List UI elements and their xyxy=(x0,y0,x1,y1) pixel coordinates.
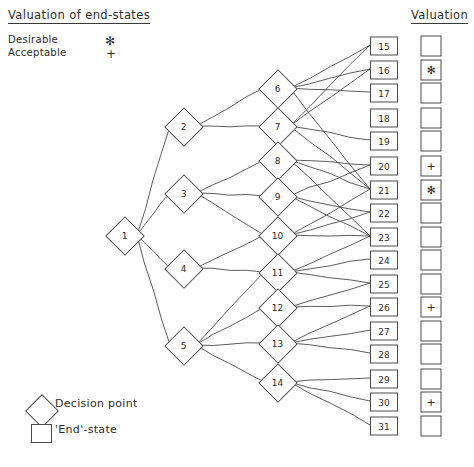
end-state-box-29[interactable]: 29 xyxy=(370,370,398,389)
decision-node-label: 11 xyxy=(272,268,283,277)
valuation-box-28[interactable] xyxy=(421,344,442,365)
tree-edge xyxy=(137,126,170,235)
decision-node-label: 10 xyxy=(272,231,283,240)
valuation-box-21[interactable]: ✻ xyxy=(421,180,442,201)
decision-node-label: 9 xyxy=(275,192,281,201)
valuation-box-19[interactable] xyxy=(421,131,442,152)
tree-edge xyxy=(290,306,370,343)
decision-node-label: 7 xyxy=(275,122,281,131)
decision-node-label: 4 xyxy=(181,264,187,273)
valuation-box-25[interactable] xyxy=(421,274,442,295)
tree-edge xyxy=(196,193,264,196)
tree-edge xyxy=(196,345,264,382)
key-end-state-label: 'End'-state xyxy=(55,423,117,436)
tree-edge xyxy=(196,126,264,127)
tree-edge xyxy=(290,160,370,236)
tree-edge xyxy=(290,305,370,307)
asterisk-icon: ✻ xyxy=(105,35,115,47)
valuation-box-24[interactable] xyxy=(421,250,442,271)
tree-edge xyxy=(290,283,370,307)
end-state-box-26[interactable]: 26 xyxy=(370,298,398,317)
end-state-box-22[interactable]: 22 xyxy=(370,204,398,223)
tree-edge xyxy=(137,235,170,268)
decision-node-label: 8 xyxy=(275,156,281,165)
tree-edge xyxy=(290,69,370,126)
legend-acceptable-label: Acceptable xyxy=(8,47,67,58)
valuation-column-title: Valuation xyxy=(411,8,468,24)
tree-edge xyxy=(290,196,370,212)
end-state-box-24[interactable]: 24 xyxy=(370,251,398,270)
valuation-box-26[interactable]: + xyxy=(421,297,442,318)
tree-edge xyxy=(290,382,370,401)
valuation-box-29[interactable] xyxy=(421,369,442,390)
valuation-box-27[interactable] xyxy=(421,321,442,342)
tree-edge xyxy=(196,343,264,346)
end-state-box-27[interactable]: 27 xyxy=(370,322,398,341)
valuation-box-22[interactable] xyxy=(421,203,442,224)
tree-edge xyxy=(290,189,370,235)
end-state-box-16[interactable]: 16 xyxy=(370,61,398,80)
end-state-box-15[interactable]: 15 xyxy=(370,37,398,56)
tree-edge xyxy=(196,160,264,193)
valuation-box-30[interactable]: + xyxy=(421,392,442,413)
plus-icon: + xyxy=(106,48,116,60)
end-state-box-23[interactable]: 23 xyxy=(370,228,398,247)
decision-node-label: 14 xyxy=(272,378,283,387)
decision-node-label: 5 xyxy=(181,341,187,350)
tree-edge xyxy=(290,382,370,425)
end-state-box-17[interactable]: 17 xyxy=(370,84,398,103)
tree-edge xyxy=(290,212,370,235)
tree-edge xyxy=(137,193,170,235)
decision-node-label: 2 xyxy=(181,122,187,131)
tree-edge xyxy=(196,268,264,272)
tree-edge xyxy=(290,45,370,88)
valuation-box-18[interactable] xyxy=(421,108,442,129)
page-title: Valuation of end-states xyxy=(8,8,150,24)
tree-edge xyxy=(196,272,264,345)
valuation-box-23[interactable] xyxy=(421,227,442,248)
decision-node-label: 1 xyxy=(122,231,128,240)
tree-edge xyxy=(290,378,370,382)
tree-edge xyxy=(196,235,264,268)
valuation-box-15[interactable] xyxy=(421,36,442,57)
tree-edge xyxy=(290,126,370,189)
legend-desirable-label: Desirable xyxy=(8,34,58,45)
tree-edge xyxy=(290,88,370,92)
end-state-box-28[interactable]: 28 xyxy=(370,345,398,364)
end-state-box-25[interactable]: 25 xyxy=(370,275,398,294)
tree-edge xyxy=(290,235,370,236)
tree-edge xyxy=(290,259,370,272)
tree-edge xyxy=(290,236,370,272)
end-state-box-19[interactable]: 19 xyxy=(370,132,398,151)
decision-node-label: 3 xyxy=(181,189,187,198)
valuation-box-20[interactable]: + xyxy=(421,156,442,177)
valuation-box-16[interactable]: ✻ xyxy=(421,60,442,81)
end-state-box-30[interactable]: 30 xyxy=(370,393,398,412)
square-icon xyxy=(31,424,52,443)
valuation-box-31[interactable] xyxy=(421,416,442,437)
end-state-box-20[interactable]: 20 xyxy=(370,157,398,176)
tree-edge xyxy=(196,88,264,126)
tree-edge xyxy=(290,272,370,283)
decision-node-label: 6 xyxy=(275,84,281,93)
end-state-box-21[interactable]: 21 xyxy=(370,181,398,200)
key-decision-point-label: Decision point xyxy=(55,397,138,410)
tree-edge xyxy=(196,193,264,235)
tree-edge xyxy=(290,165,370,196)
valuation-box-17[interactable] xyxy=(421,83,442,104)
tree-edge xyxy=(290,126,370,140)
decision-node-label: 12 xyxy=(272,303,283,312)
end-state-box-31[interactable]: 31 xyxy=(370,417,398,436)
decision-node-label: 13 xyxy=(272,339,283,348)
tree-edge xyxy=(290,343,370,353)
end-state-box-18[interactable]: 18 xyxy=(370,109,398,128)
tree-edge xyxy=(196,307,264,345)
